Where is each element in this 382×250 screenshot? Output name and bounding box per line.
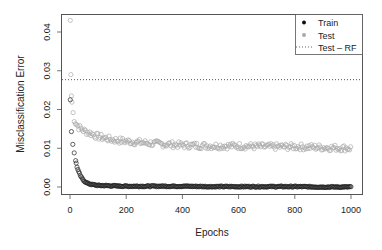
x-tick-label: 600 [231, 205, 246, 215]
legend-rf-label: Test – RF [318, 43, 357, 53]
y-tick-label: 0.02 [42, 101, 52, 119]
y-axis-label: Misclassification Error [15, 55, 26, 153]
x-axis: 02004006008001000 [67, 195, 361, 216]
x-tick-label: 800 [287, 205, 302, 215]
x-tick-label: 400 [175, 205, 190, 215]
x-axis-label: Epochs [195, 227, 228, 238]
chart-canvas: 0.000.010.020.030.04 02004006008001000 E… [0, 0, 382, 250]
y-tick-label: 0.04 [42, 23, 52, 41]
x-tick-label: 1000 [341, 205, 361, 215]
y-axis: 0.000.010.020.030.04 [42, 23, 62, 196]
legend-train-icon [302, 21, 306, 25]
y-tick-label: 0.00 [42, 178, 52, 196]
x-tick-label: 200 [119, 205, 134, 215]
y-tick-label: 0.03 [42, 62, 52, 80]
legend-test-label: Test [318, 31, 335, 41]
legend-test-icon [302, 33, 306, 37]
legend: Train Test Test – RF [296, 15, 363, 55]
y-tick-label: 0.01 [42, 139, 52, 157]
chart: 0.000.010.020.030.04 02004006008001000 E… [0, 0, 382, 250]
x-tick-label: 0 [67, 205, 72, 215]
legend-train-label: Train [318, 18, 338, 28]
